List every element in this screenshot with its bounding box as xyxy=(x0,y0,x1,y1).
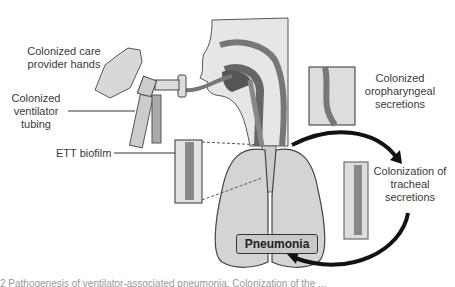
label-oropharyngeal: Colonized oropharyngeal secretions xyxy=(360,72,440,111)
figure-caption: 2 Pathogenesis of ventilator-associated … xyxy=(0,279,326,287)
cycle-arrow-top xyxy=(292,132,397,158)
pneumonia-box: Pneumonia xyxy=(236,234,318,254)
label-tracheal: Colonization of tracheal secretions xyxy=(370,165,450,204)
label-hands: Colonized care provider hands xyxy=(24,45,104,71)
label-biofilm: ETT biofilm xyxy=(56,147,116,160)
diagram-art xyxy=(0,0,455,287)
label-tubing: Colonized ventilator tubing xyxy=(8,92,64,131)
